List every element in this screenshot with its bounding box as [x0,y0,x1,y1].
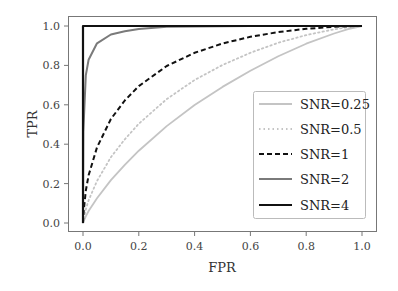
legend-label: SNR=0.25 [300,97,370,112]
legend-label: SNR=0.5 [300,122,362,137]
roc-chart: 0.00.20.40.60.81.00.00.20.40.60.81.0 SNR… [0,0,398,291]
legend-label: SNR=1 [300,147,349,162]
x-tick-label: 0.8 [297,240,315,253]
y-tick-label: 1.0 [43,20,61,33]
x-axis-title: FPR [208,260,237,275]
legend: SNR=0.25SNR=0.5SNR=1SNR=2SNR=4 [254,92,370,219]
x-tick-label: 1.0 [353,240,371,253]
legend-label: SNR=2 [300,172,349,187]
y-tick-label: 0.4 [43,138,61,151]
y-tick-label: 0.8 [43,59,61,72]
y-axis-title: TPR [25,109,40,137]
y-tick-label: 0.2 [43,178,61,191]
legend-label: SNR=4 [300,198,349,213]
x-tick-label: 0.0 [74,240,92,253]
y-tick-label: 0.0 [43,217,61,230]
y-tick-label: 0.6 [43,99,61,112]
x-tick-label: 0.2 [130,240,148,253]
x-tick-label: 0.4 [186,240,204,253]
x-tick-label: 0.6 [242,240,260,253]
